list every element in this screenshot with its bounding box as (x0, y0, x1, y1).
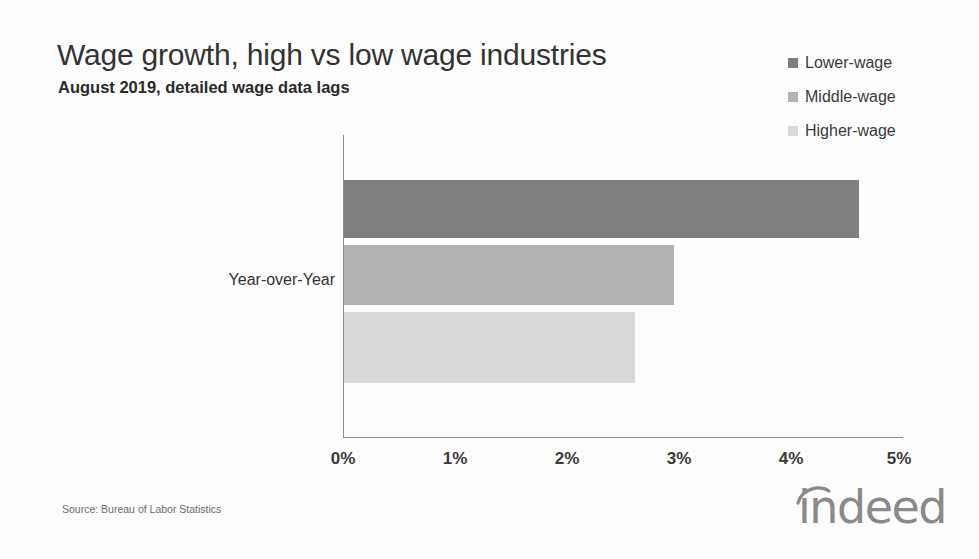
x-tick-label-3: 3% (649, 449, 709, 469)
bar-higher-wage (344, 312, 635, 383)
legend-label-middle-wage: Middle-wage (805, 88, 896, 106)
legend-swatch-icon-lower-wage (788, 58, 798, 68)
bar-middle-wage (344, 245, 674, 305)
x-axis-line (343, 437, 903, 438)
indeed-logo: indeed (790, 480, 950, 540)
source-note: Source: Bureau of Labor Statistics (62, 503, 221, 515)
chart-subtitle: August 2019, detailed wage data lags (58, 78, 350, 97)
legend-item-middle-wage: Middle-wage (788, 80, 968, 114)
category-label-year-over-year: Year-over-Year (190, 271, 335, 289)
indeed-logo-text: indeed (798, 480, 946, 534)
chart-legend: Lower-wage Middle-wage Higher-wage (788, 46, 968, 148)
x-tick-label-4: 4% (761, 449, 821, 469)
chart-title: Wage growth, high vs low wage industries (57, 38, 607, 72)
x-tick-label-1: 1% (425, 449, 485, 469)
legend-label-lower-wage: Lower-wage (805, 54, 892, 72)
legend-item-lower-wage: Lower-wage (788, 46, 968, 80)
x-tick-label-2: 2% (537, 449, 597, 469)
x-tick-label-0: 0% (313, 449, 373, 469)
plot-area (343, 135, 903, 438)
bar-lower-wage (344, 180, 859, 238)
slide-canvas: Wage growth, high vs low wage industries… (0, 0, 979, 559)
x-tick-label-5: 5% (869, 449, 929, 469)
legend-swatch-icon-middle-wage (788, 92, 798, 102)
